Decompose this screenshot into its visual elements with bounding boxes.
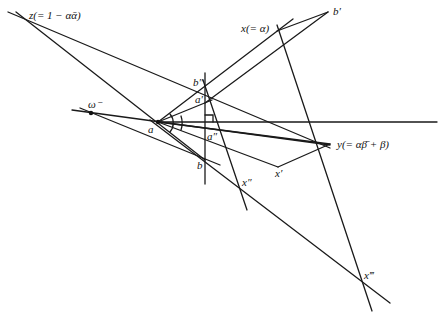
line-a-x-prime: [158, 122, 278, 167]
label-x-triple: x‴: [364, 270, 374, 281]
label-z: z(= 1 − αᾱ): [29, 10, 81, 21]
line-z-b: [16, 12, 205, 160]
label-omega: ω⁻: [88, 99, 102, 110]
line-b-double-x-double: [203, 80, 247, 210]
angle-arc-inner: [181, 116, 182, 130]
label-b-prime: b′: [333, 6, 341, 17]
label-x: x(= α): [241, 23, 269, 34]
label-x-prime: x′: [275, 168, 282, 179]
label-a: a: [148, 124, 154, 135]
line-x-x-triple: [277, 25, 372, 311]
diagram-lines: [0, 0, 447, 320]
label-a-prime: a′: [195, 94, 203, 105]
point-a: [156, 120, 160, 124]
line-x-b-prime: [277, 12, 328, 31]
point-omega: [89, 111, 93, 115]
line-a-a-prime: [158, 100, 212, 122]
label-x-double: x″: [242, 177, 251, 188]
line-a-x: [158, 19, 293, 122]
label-b-double: b″: [193, 77, 203, 88]
line-x-prime-y: [278, 144, 330, 167]
line-z-y: [8, 12, 330, 148]
line-a-y: [158, 122, 330, 144]
label-y: y(= αβ̄ + β): [337, 139, 389, 150]
label-a-double: a″: [207, 131, 217, 142]
right-angle-marker: [205, 115, 213, 122]
label-b: b: [197, 160, 203, 171]
diagram-canvas: z(= 1 − αᾱ) x(= α) b′ b″ a′ ω⁻ a a″ y(= …: [0, 0, 447, 320]
